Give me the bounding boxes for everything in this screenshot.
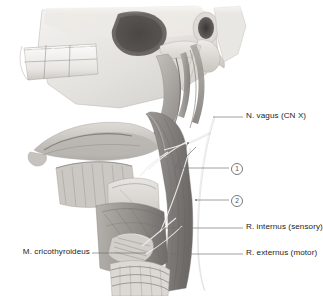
cricothyroid-muscle-group <box>108 234 154 264</box>
trachea-group <box>110 261 170 296</box>
label-m-cricothyroideus: M. cricothyroideus <box>4 248 90 257</box>
label-r-internus: R. internus (sensory) <box>246 223 323 232</box>
molar-teeth-group <box>20 44 98 80</box>
label-n-vagus: N. vagus (CN X) <box>246 112 306 121</box>
label-r-externus: R. externus (motor) <box>246 249 317 258</box>
hyoid-group <box>28 122 162 166</box>
key-number-1: 1 <box>231 163 243 175</box>
key-number-2: 2 <box>231 195 243 207</box>
anatomical-figure: N. vagus (CN X) 1 2 R. internus (sensory… <box>0 0 323 296</box>
